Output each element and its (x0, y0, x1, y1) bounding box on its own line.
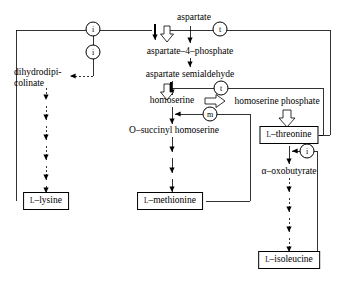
product-l-lysine[interactable]: L–lysine (23, 192, 69, 210)
metabolite-o-succinyl-homoserine: O–succinyl homoserine (129, 125, 219, 136)
regulator-node-t-homoserine[interactable]: t (214, 81, 229, 96)
metabolite-alpha-oxobutyrate: α–oxobutyrate (261, 166, 316, 177)
l-isoleucine-name: –isoleucine (270, 254, 313, 264)
product-l-methionine[interactable]: L–methionine (137, 192, 203, 210)
metabolite-dihydrodipicolinate: dihydrodipi- colinate (14, 67, 62, 89)
regulator-node-i-dihydrodipicolinate[interactable]: i (86, 45, 101, 60)
regulator-node-m-methionine[interactable]: m (203, 107, 218, 122)
l-threonine-name: –threonine (271, 129, 312, 139)
l-lysine-name: –lysine (34, 195, 61, 205)
regulator-node-i-top-left[interactable]: i (86, 22, 101, 37)
dihydrodipicolinate-line1: dihydrodipi- (14, 67, 62, 77)
metabolite-aspartate: aspartate (177, 12, 211, 23)
metabolite-homoserine: homoserine (150, 95, 194, 106)
hollow-arrow-homoserine-to-phosphate (205, 95, 225, 108)
product-l-isoleucine[interactable]: L–isoleucine (258, 251, 320, 269)
hollow-arrow-aspartate-entry (161, 26, 174, 42)
metabolite-homoserine-phosphate: homoserine phosphate (234, 96, 319, 107)
metabolite-aspartate-4-phosphate: aspartate–4–phosphate (147, 46, 234, 57)
l-methionine-name: –methionine (148, 195, 196, 205)
edge-lysine-feedback (16, 30, 86, 201)
metabolite-aspartate-semialdehyde: aspartate semialdehyde (146, 69, 234, 80)
hollow-arrow-phosphate-to-threonine (279, 110, 295, 127)
edge-threonine-feedback-top (227, 30, 330, 135)
regulator-node-i-threonine[interactable]: i (300, 144, 315, 159)
pathway-diagram: aspartate aspartate–4–phosphate aspartat… (0, 0, 340, 283)
regulator-node-t-top-right[interactable]: t (213, 22, 228, 37)
product-l-threonine[interactable]: L–threonine (259, 126, 318, 144)
dihydrodipicolinate-line2: colinate (14, 78, 44, 88)
